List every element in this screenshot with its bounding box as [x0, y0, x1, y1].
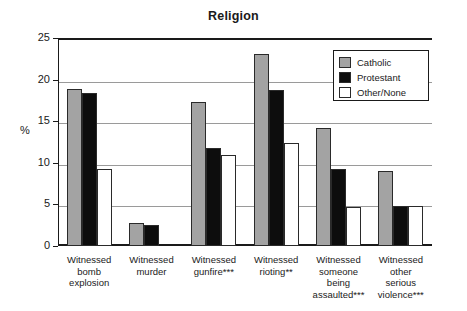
legend-label-other-none: Other/None	[357, 87, 406, 98]
legend-item-protestant: Protestant	[339, 70, 423, 84]
chart-title: Religion	[0, 9, 467, 23]
x-axis-label-line: rioting**	[241, 266, 311, 278]
y-axis-label-20: 20	[24, 73, 50, 85]
chart-legend: Catholic Protestant Other/None	[333, 50, 429, 101]
x-axis-label-line: gunfire***	[179, 266, 249, 278]
x-axis-label-line: serious	[366, 277, 436, 289]
x-axis-label-5: Witnessedsomeonebeingassaulted***	[303, 254, 373, 300]
y-axis-label-10: 10	[24, 156, 50, 168]
x-axis-label-1: Witnessedbombexplosion	[54, 254, 124, 289]
bar-3-protestant	[206, 148, 221, 246]
x-axis-label-line: Witnessed	[303, 254, 373, 266]
legend-label-protestant: Protestant	[357, 72, 400, 83]
bar-5-other-none	[346, 207, 361, 246]
y-axis-label-0: 0	[24, 239, 50, 251]
x-axis-label-line: bomb	[54, 266, 124, 278]
x-axis-label-line: someone	[303, 266, 373, 278]
legend-item-catholic: Catholic	[339, 55, 423, 69]
x-axis-label-line: Witnessed	[54, 254, 124, 266]
x-axis-label-line: Witnessed	[366, 254, 436, 266]
bar-6-catholic	[378, 171, 393, 246]
legend-item-other-none: Other/None	[339, 85, 423, 99]
bar-3-other-none	[221, 155, 236, 246]
x-axis-label-line: Witnessed	[116, 254, 186, 266]
bar-4-catholic	[254, 54, 269, 246]
x-axis-label-3: Witnessedgunfire***	[179, 254, 249, 277]
x-axis-label-line: murder	[116, 266, 186, 278]
bar-5-protestant	[331, 169, 346, 246]
x-axis-label-line: other	[366, 266, 436, 278]
legend-swatch-protestant-icon	[339, 72, 351, 83]
x-axis-label-line: explosion	[54, 277, 124, 289]
x-axis-label-line: being	[303, 277, 373, 289]
legend-swatch-other-none-icon	[339, 87, 351, 98]
bar-1-other-none	[97, 169, 112, 246]
x-axis-label-line: assaulted***	[303, 289, 373, 301]
bar-2-catholic	[129, 223, 144, 246]
bar-6-protestant	[393, 206, 408, 246]
bar-5-catholic	[316, 128, 331, 246]
x-axis-label-line: violence***	[366, 289, 436, 301]
chart-container: Religion % 0510152025 Witnessedbombexplo…	[0, 0, 467, 311]
y-axis-label-25: 25	[24, 31, 50, 43]
bar-4-other-none	[284, 143, 299, 246]
y-axis-label-15: 15	[24, 114, 50, 126]
bar-4-protestant	[269, 90, 284, 246]
x-axis-label-2: Witnessedmurder	[116, 254, 186, 277]
x-axis-label-4: Witnessedrioting**	[241, 254, 311, 277]
x-axis-label-6: Witnessedotherseriousviolence***	[366, 254, 436, 300]
legend-label-catholic: Catholic	[357, 57, 391, 68]
y-axis-label-5: 5	[24, 197, 50, 209]
bar-3-catholic	[191, 102, 206, 246]
bar-6-other-none	[408, 206, 423, 246]
legend-swatch-catholic-icon	[339, 57, 351, 68]
bar-1-protestant	[82, 93, 97, 246]
bar-2-protestant	[144, 225, 159, 246]
x-axis-label-line: Witnessed	[241, 254, 311, 266]
y-tick-0	[53, 246, 58, 247]
bar-1-catholic	[67, 89, 82, 246]
x-axis-label-line: Witnessed	[179, 254, 249, 266]
